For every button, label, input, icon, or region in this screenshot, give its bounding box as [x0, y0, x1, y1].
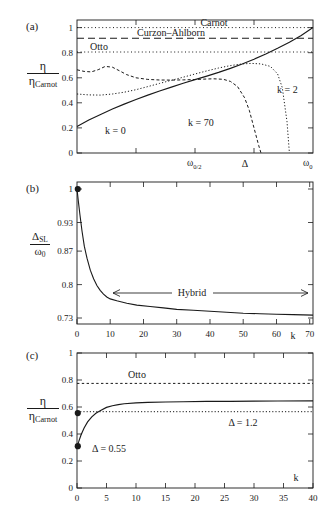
svg-text:35: 35 — [279, 493, 289, 503]
svg-text:0.8: 0.8 — [62, 375, 74, 385]
svg-text:0: 0 — [69, 483, 74, 493]
svg-text:10: 10 — [132, 493, 142, 503]
panel-a-curve-k2 — [77, 63, 289, 153]
svg-text:25: 25 — [220, 493, 230, 503]
svg-text:0.6: 0.6 — [62, 73, 74, 83]
panel-a-xlabel: Δ — [242, 158, 249, 169]
svg-text:1: 1 — [69, 23, 74, 33]
panel-c-marker-point-lower — [75, 443, 81, 449]
panel-b-x-ticks — [77, 182, 310, 324]
panel-b-y-ticklabels: 0.73 0.8 0.87 0.93 1 — [57, 184, 73, 323]
svg-text:5: 5 — [104, 493, 109, 503]
panel-b-plot: 0.73 0.8 0.87 0.93 1 0 10 20 — [0, 170, 329, 345]
svg-text:0: 0 — [69, 148, 74, 158]
panel-c-label-otto: Otto — [128, 369, 146, 380]
panel-a-label-otto: Otto — [90, 41, 108, 52]
svg-text:20: 20 — [139, 329, 149, 339]
figure-container: (a) η ηCarnot 0 0.2 0.4 0 — [0, 0, 329, 522]
panel-c-label-delta-1-2: Δ = 1.2 — [228, 417, 257, 428]
svg-text:0.8: 0.8 — [62, 280, 74, 290]
svg-text:ω0: ω0 — [303, 158, 313, 170]
svg-text:0.6: 0.6 — [62, 402, 74, 412]
svg-text:40: 40 — [206, 329, 216, 339]
panel-a-x-ticks — [136, 20, 254, 153]
svg-text:0.87: 0.87 — [57, 246, 73, 256]
svg-text:0.2: 0.2 — [62, 456, 73, 466]
svg-text:0.4: 0.4 — [62, 98, 74, 108]
svg-text:0: 0 — [75, 493, 80, 503]
panel-b-hybrid-annotation — [113, 290, 308, 297]
panel-c-curve-delta-0-55 — [77, 401, 313, 446]
svg-text:15: 15 — [161, 493, 171, 503]
panel-b-axes-frame — [77, 182, 313, 324]
panel-a-x-ticklabels: ω0/2 ω0 — [187, 158, 313, 170]
svg-text:60: 60 — [272, 329, 282, 339]
svg-text:0.2: 0.2 — [62, 123, 73, 133]
panel-c-axes-frame — [77, 353, 313, 488]
svg-text:0: 0 — [75, 329, 80, 339]
panel-c-plot: 0 0.2 0.4 0.6 0.8 1 0 5 — [0, 340, 329, 522]
panel-c-y-ticklabels: 0 0.2 0.4 0.6 0.8 1 — [62, 348, 74, 493]
svg-text:0.4: 0.4 — [62, 429, 74, 439]
panel-a-label-k2: k = 2 — [277, 84, 298, 95]
svg-text:30: 30 — [172, 329, 182, 339]
panel-a-plot: 0 0.2 0.4 0.6 0.8 1 Carnot Curzon–Ahlbo — [0, 0, 329, 175]
svg-text:ω0/2: ω0/2 — [187, 158, 202, 170]
panel-c-x-ticks — [77, 353, 313, 488]
svg-text:20: 20 — [191, 493, 201, 503]
panel-a-curve-k70 — [77, 66, 261, 153]
svg-text:30: 30 — [250, 493, 260, 503]
panel-b-y-ticks — [77, 189, 313, 318]
svg-text:0.73: 0.73 — [57, 313, 73, 323]
svg-text:0.93: 0.93 — [57, 218, 73, 228]
panel-a-y-ticklabels: 0 0.2 0.4 0.6 0.8 1 — [62, 23, 74, 158]
svg-text:70: 70 — [305, 329, 315, 339]
panel-c-xlabel: k — [294, 472, 299, 483]
svg-text:1: 1 — [69, 184, 74, 194]
panel-b-x-ticklabels: 0 10 20 30 40 50 60 70 — [75, 329, 315, 339]
svg-text:40: 40 — [309, 493, 319, 503]
panel-b-hybrid-label: Hybrid — [178, 287, 206, 298]
panel-c-y-ticks — [77, 353, 313, 488]
panel-b-marker-point — [75, 186, 81, 192]
panel-c-marker-point-upper — [75, 410, 81, 416]
svg-text:50: 50 — [239, 329, 249, 339]
svg-text:10: 10 — [106, 329, 116, 339]
panel-a-curve-k0 — [77, 28, 313, 127]
panel-a-label-k0: k = 0 — [105, 125, 126, 136]
svg-text:0.8: 0.8 — [62, 48, 74, 58]
panel-a-label-k70: k = 70 — [188, 117, 214, 128]
svg-text:1: 1 — [69, 348, 74, 358]
panel-a-label-curzon-ahlborn: Curzon–Ahlborn — [137, 27, 205, 38]
panel-c-label-delta-0-55: Δ = 0.55 — [92, 443, 126, 454]
panel-c-x-ticklabels: 0 5 10 15 20 25 30 35 40 — [75, 493, 318, 503]
